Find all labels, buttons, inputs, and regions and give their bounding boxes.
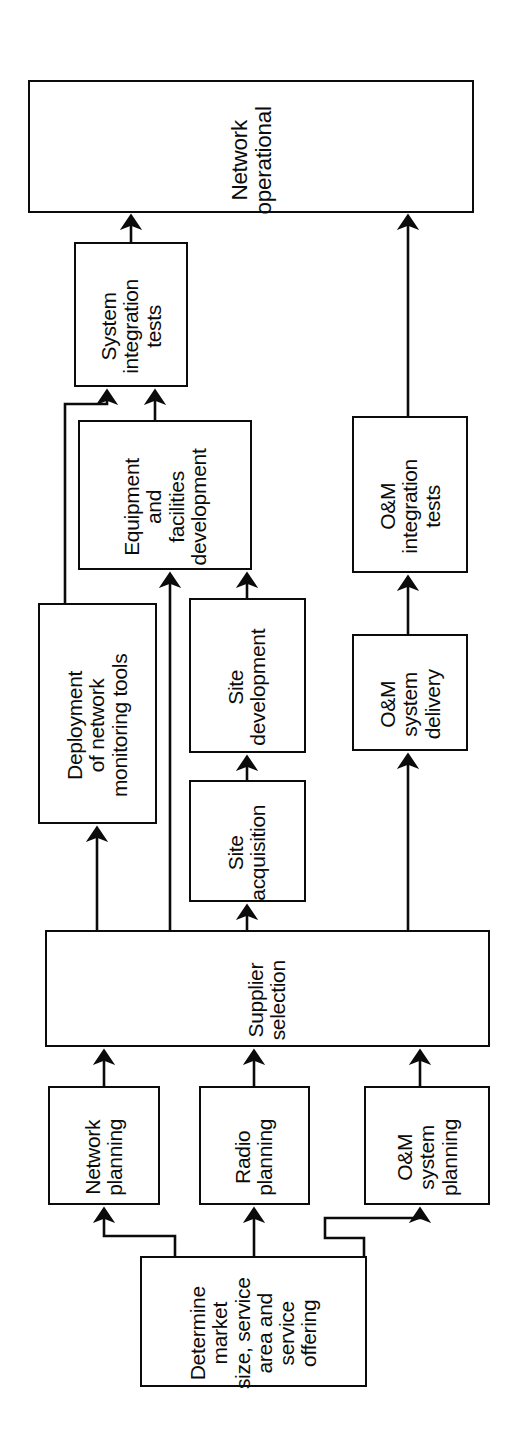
node-label-system-integration-tests: System integration tests — [98, 271, 165, 381]
node-label-wrap-equipment-and-facilities-development: Equipment and facilities development — [80, 422, 250, 568]
node-label-wrap-network-planning: Network planning — [50, 1088, 158, 1203]
node-label-wrap-deployment-of-network-monitoring-tools: Deployment of network monitoring tools — [40, 605, 155, 822]
node-om-integration-tests[interactable]: O&M integration tests — [352, 416, 468, 573]
node-network-planning[interactable]: Network planning — [48, 1086, 160, 1205]
node-label-network-planning: Network planning — [82, 1103, 127, 1211]
node-om-system-planning[interactable]: O&M system planning — [364, 1086, 490, 1205]
node-network-operational[interactable]: Network operational — [28, 80, 474, 213]
node-site-development[interactable]: Site development — [189, 598, 306, 753]
node-determine-market[interactable]: Determine market size, service area and … — [140, 1256, 367, 1387]
node-label-radio-planning: Radio planning — [232, 1104, 277, 1211]
node-label-network-operational: Network operational — [227, 98, 275, 223]
node-equipment-and-facilities-development[interactable]: Equipment and facilities development — [78, 420, 252, 570]
node-label-deployment-of-network-monitoring-tools: Deployment of network monitoring tools — [64, 654, 131, 797]
node-label-determine-market: Determine market size, service area and … — [187, 1272, 321, 1395]
node-label-wrap-om-integration-tests: O&M integration tests — [354, 418, 466, 571]
node-label-wrap-radio-planning: Radio planning — [201, 1088, 308, 1203]
node-label-equipment-and-facilities-development: Equipment and facilities development — [121, 436, 210, 578]
node-label-wrap-system-integration-tests: System integration tests — [76, 244, 186, 385]
node-system-integration-tests[interactable]: System integration tests — [74, 242, 188, 387]
node-supplier-selection[interactable]: Supplier selection — [45, 930, 490, 1047]
flowchart-canvas: Network operationalSystem integration te… — [0, 0, 519, 1445]
node-label-wrap-determine-market: Determine market size, service area and … — [142, 1258, 365, 1385]
node-label-wrap-om-system-planning: O&M system planning — [366, 1088, 488, 1203]
node-label-site-development: Site development — [225, 629, 270, 746]
node-label-om-system-delivery: O&M system delivery — [377, 650, 444, 759]
edge-determine-to-om-planning — [325, 1215, 420, 1256]
node-deployment-of-network-monitoring-tools[interactable]: Deployment of network monitoring tools — [38, 603, 157, 824]
node-label-om-integration-tests: O&M integration tests — [377, 450, 444, 562]
node-label-wrap-site-acquisition: Site acquisition — [191, 782, 304, 900]
node-label-wrap-supplier-selection: Supplier selection — [47, 932, 488, 1045]
node-label-wrap-network-operational: Network operational — [30, 82, 472, 211]
edge-determine-to-network-planning — [104, 1215, 175, 1256]
node-label-wrap-om-system-delivery: O&M system delivery — [354, 636, 466, 749]
node-site-acquisition[interactable]: Site acquisition — [189, 780, 306, 902]
node-radio-planning[interactable]: Radio planning — [199, 1086, 310, 1205]
node-label-supplier-selection: Supplier selection — [245, 946, 290, 1055]
node-label-wrap-site-development: Site development — [191, 600, 304, 751]
node-label-site-acquisition: Site acquisition — [225, 796, 270, 909]
node-label-om-system-planning: O&M system planning — [394, 1102, 461, 1213]
node-om-system-delivery[interactable]: O&M system delivery — [352, 634, 468, 751]
